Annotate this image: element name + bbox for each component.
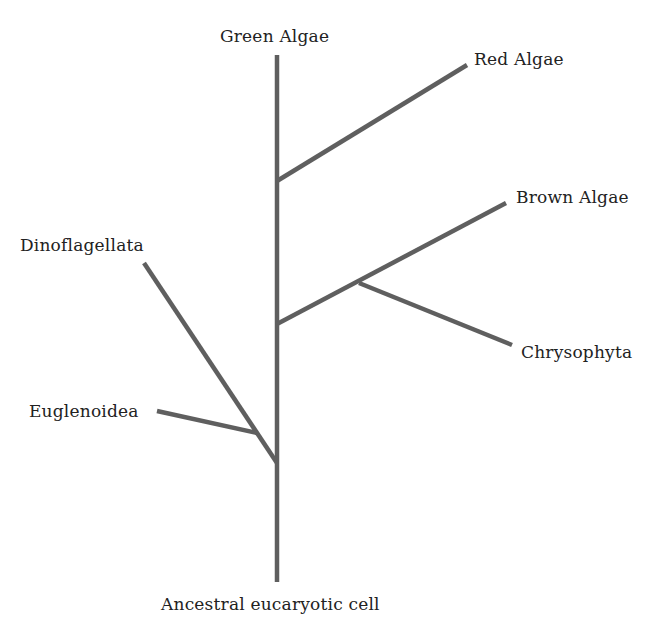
branch-red-algae [277,65,467,181]
label-brown-algae: Brown Algae [516,187,629,207]
label-euglenoidea: Euglenoidea [29,401,139,421]
branch-dinoflagellata [144,263,277,463]
phylogenetic-tree [0,0,667,619]
label-chrysophyta: Chrysophyta [521,342,632,362]
label-red-algae: Red Algae [474,49,564,69]
label-green-algae: Green Algae [220,26,329,46]
branch-chrysophyta [359,283,512,345]
label-root-ancestral-cell: Ancestral eucaryotic cell [161,594,380,614]
label-dinoflagellata: Dinoflagellata [20,235,144,255]
branch-brown-algae-stem [277,203,506,324]
